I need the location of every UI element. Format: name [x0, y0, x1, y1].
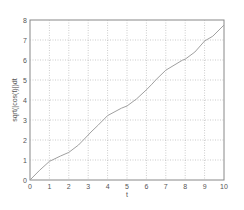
x-axis-label: t [126, 191, 128, 198]
x-tick-label: 10 [220, 183, 228, 190]
y-tick-label: 3 [23, 117, 27, 124]
x-axis-ticks: 012345678910 [28, 183, 228, 190]
x-tick-label: 4 [106, 183, 110, 190]
x-tick-label: 0 [28, 183, 32, 190]
y-axis-label: sqrt(|cos(t)|)dt [11, 78, 19, 121]
x-tick-label: 6 [144, 183, 148, 190]
x-tick-label: 1 [47, 183, 51, 190]
x-tick-label: 5 [125, 183, 129, 190]
y-axis-ticks: 012345678 [23, 17, 27, 184]
y-tick-label: 8 [23, 17, 27, 24]
y-tick-label: 1 [23, 157, 27, 164]
x-tick-label: 9 [203, 183, 207, 190]
y-tick-label: 2 [23, 137, 27, 144]
y-tick-label: 4 [23, 97, 27, 104]
x-tick-label: 3 [86, 183, 90, 190]
x-tick-label: 2 [67, 183, 71, 190]
y-tick-label: 6 [23, 57, 27, 64]
y-tick-label: 5 [23, 77, 27, 84]
y-tick-label: 7 [23, 37, 27, 44]
y-tick-label: 0 [23, 177, 27, 184]
x-tick-label: 8 [183, 183, 187, 190]
x-tick-label: 7 [164, 183, 168, 190]
line-chart: 012345678910 012345678 t sqrt(|cos(t)|)d… [0, 0, 244, 210]
